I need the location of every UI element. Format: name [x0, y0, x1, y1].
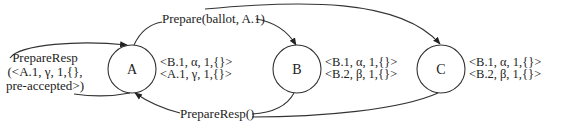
- self-resp-label-line1: PrepareResp: [12, 50, 78, 65]
- node-b-state-2: <B.2, β, 1,{}>: [325, 67, 397, 81]
- node-c: C: [417, 45, 465, 93]
- self-resp-label-line3: pre-accepted>): [6, 78, 84, 93]
- edge-a-to-b-start: [134, 22, 162, 45]
- node-c-label: C: [436, 62, 445, 77]
- edge-b-to-a-end: [135, 93, 180, 113]
- message-flow-diagram: A B C <B.1, α, 1,{}> <A.1, γ, 1,{}> <B.1…: [0, 0, 566, 129]
- self-loop-edge-bottom: [74, 93, 130, 96]
- node-a-label: A: [127, 62, 138, 77]
- prepare-resp-edge-label: PrepareResp(): [180, 106, 254, 121]
- edge-c-to-a: [252, 93, 438, 117]
- node-a-state-2: <A.1, γ, 1,{}>: [160, 67, 232, 81]
- self-resp-label-line2: (<A.1, γ, 1,{},: [7, 64, 82, 79]
- node-a: A: [108, 45, 156, 93]
- edge-b-to-a: [252, 93, 294, 114]
- prepare-edge-label: Prepare(ballot, A.1): [162, 11, 265, 26]
- node-b-label: B: [292, 62, 301, 77]
- node-b: B: [273, 45, 321, 93]
- node-c-state-2: <B.2, β, 1,{}>: [469, 67, 541, 81]
